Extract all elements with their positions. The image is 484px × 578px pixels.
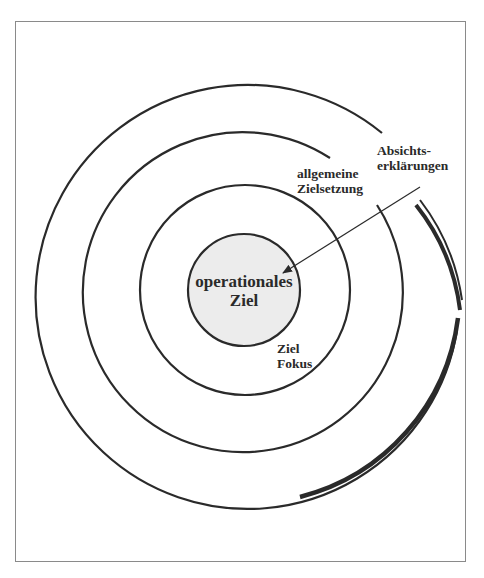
- label-line: allgemeine: [297, 166, 363, 181]
- label-ziel-fokus: Ziel Fokus: [277, 341, 312, 371]
- label-operationales-ziel: operationales Ziel: [188, 272, 300, 310]
- label-line: Ziel: [188, 291, 300, 310]
- label-line: operationales: [188, 272, 300, 291]
- label-line: Ziel: [277, 341, 312, 356]
- label-absichtserklaerungen: Absichts- erklärungen: [377, 143, 448, 173]
- label-line: Zielsetzung: [297, 181, 363, 196]
- label-line: Fokus: [277, 356, 312, 371]
- label-line: Absichts-: [377, 143, 448, 158]
- label-line: erklärungen: [377, 158, 448, 173]
- label-allgemeine-zielsetzung: allgemeine Zielsetzung: [297, 166, 363, 196]
